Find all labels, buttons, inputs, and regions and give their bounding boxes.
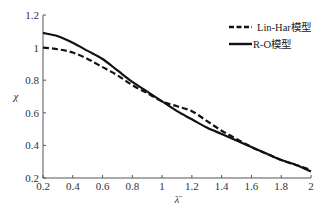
x-tick-label: 1.2 [185, 180, 199, 192]
x-tick-label: 2 [308, 180, 314, 192]
y-tick-label: 1.2 [25, 9, 39, 21]
x-tick-label: 0.4 [66, 180, 80, 192]
series-group [43, 33, 311, 172]
x-tick-label: 0.6 [96, 180, 110, 192]
legend-label: R-O模型 [253, 38, 291, 50]
y-tick-label: 0.2 [25, 172, 39, 184]
legend: Lin-Har模型R-O模型 [229, 21, 311, 50]
x-axis-label: λ̄ [174, 193, 183, 205]
y-tick-label: 0.8 [25, 74, 39, 86]
x-tick-label: 0.8 [125, 180, 139, 192]
r-o-series-line [43, 33, 311, 172]
x-tick-label: 1.6 [245, 180, 259, 192]
legend-label: Lin-Har模型 [257, 21, 311, 33]
axes: 0.20.40.60.811.21.41.61.820.20.40.60.811… [25, 9, 314, 192]
lin-har-series-line [43, 48, 311, 170]
y-tick-label: 1 [34, 42, 40, 54]
x-tick-label: 1.8 [274, 180, 288, 192]
y-tick-label: 0.6 [25, 107, 39, 119]
y-tick-label: 0.4 [25, 139, 39, 151]
line-chart: 0.20.40.60.811.21.41.61.820.20.40.60.811… [0, 0, 327, 217]
y-axis-label: χ [13, 90, 20, 102]
x-tick-label: 1 [159, 180, 165, 192]
x-tick-label: 1.4 [215, 180, 229, 192]
